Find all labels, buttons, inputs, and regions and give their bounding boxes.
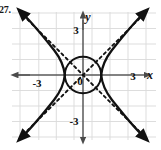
y-axis-label: y xyxy=(83,10,91,24)
coordinate-plane-plot: y x 3 -3 -3 3 0 xyxy=(0,0,161,150)
y-tick-label-positive: 3 xyxy=(73,24,79,36)
x-tick-label-negative: -3 xyxy=(32,77,42,89)
math-figure: 27. xyxy=(0,0,161,150)
hyperbola-right-upper xyxy=(101,16,141,75)
hyperbola-left-lower xyxy=(25,75,65,134)
hyperbola-right-lower xyxy=(101,75,141,134)
x-tick-label-positive: 3 xyxy=(130,70,136,82)
x-axis-label: x xyxy=(146,68,153,82)
y-tick-label-negative: -3 xyxy=(69,115,79,127)
hyperbola-left-upper xyxy=(25,16,65,75)
origin-label: 0 xyxy=(77,75,83,87)
